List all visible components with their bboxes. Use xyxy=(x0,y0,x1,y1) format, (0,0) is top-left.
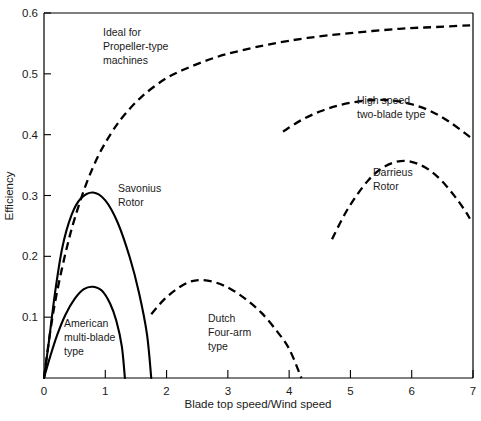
y-axis-title: Efficiency xyxy=(3,171,15,220)
darrieus-line-2: Rotor xyxy=(373,180,399,192)
darrieus-rotor-label: Darrieus Rotor xyxy=(373,166,413,192)
y-tick-label: 0.2 xyxy=(22,250,38,262)
curve-annotations: Ideal for Propeller-type machines Savoni… xyxy=(64,26,425,357)
highspeed-line-1: High speed xyxy=(357,94,410,106)
y-tick-label: 0.3 xyxy=(22,190,38,202)
y-axis-ticks: 0.10.20.30.40.50.6 xyxy=(22,7,51,323)
x-tick-label: 1 xyxy=(102,385,108,397)
y-tick-label: 0.5 xyxy=(22,68,38,80)
x-axis-title: Blade top speed/Wind speed xyxy=(184,398,331,410)
highspeed-line-2: two-blade type xyxy=(357,108,425,120)
dutch-line-3: type xyxy=(208,340,228,352)
y-tick-label: 0.4 xyxy=(22,129,39,141)
x-tick-label: 5 xyxy=(347,385,353,397)
y-tick-label: 0.1 xyxy=(22,311,38,323)
savonius-rotor-label: Savonius Rotor xyxy=(118,182,161,208)
american-line-3: type xyxy=(64,345,84,357)
darrieus-line-1: Darrieus xyxy=(373,166,413,178)
american-line-2: multi-blade xyxy=(64,331,116,343)
ideal-line-1: Ideal for xyxy=(103,26,141,38)
dutch-fourarm-label: Dutch Four-arm type xyxy=(208,312,251,352)
savonius-line-2: Rotor xyxy=(118,196,144,208)
y-tick-label: 0.6 xyxy=(22,7,38,19)
ideal-propeller-label: Ideal for Propeller-type machines xyxy=(103,26,169,66)
x-tick-label: 2 xyxy=(163,385,169,397)
high-speed-twoblade-label: High speed two-blade type xyxy=(357,94,425,120)
ideal-line-3: machines xyxy=(103,54,148,66)
savonius-line-1: Savonius xyxy=(118,182,161,194)
x-tick-label: 4 xyxy=(286,385,293,397)
x-tick-label: 0 xyxy=(41,385,47,397)
dutch-line-1: Dutch xyxy=(208,312,236,324)
x-tick-label: 7 xyxy=(470,385,476,397)
ideal-line-2: Propeller-type xyxy=(103,40,169,52)
dutch-line-2: Four-arm xyxy=(208,326,251,338)
x-axis-ticks: 01234567 xyxy=(41,370,476,397)
curve-savonius-rotor xyxy=(44,192,151,378)
wind-turbine-efficiency-figure: 0.10.20.30.40.50.6 01234567 Blade top sp… xyxy=(0,0,481,421)
american-multiblade-label: American multi-blade type xyxy=(64,317,116,357)
x-tick-label: 6 xyxy=(409,385,415,397)
x-tick-label: 3 xyxy=(225,385,231,397)
american-line-1: American xyxy=(64,317,109,329)
efficiency-chart: 0.10.20.30.40.50.6 01234567 Blade top sp… xyxy=(0,0,481,421)
